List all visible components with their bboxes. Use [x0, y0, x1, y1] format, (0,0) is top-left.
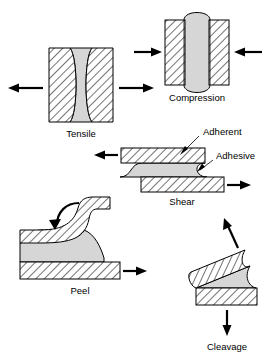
- shear-adherent-bottom: [141, 177, 224, 192]
- tensile-adherent-left: [49, 48, 76, 122]
- peel-caption: Peel: [70, 285, 89, 296]
- peel-adherent-bottom: [20, 262, 120, 279]
- cleavage-adherent-bottom: [196, 288, 257, 305]
- shear-caption: Shear: [169, 196, 194, 207]
- compression-caption: Compression: [169, 92, 225, 103]
- adhesive-label: Adhesive: [216, 150, 255, 161]
- compression-adherent-left: [165, 20, 185, 85]
- tensile-adherent-right: [86, 48, 113, 122]
- compression-adherent-right: [209, 20, 229, 85]
- adherent-label: Adherent: [203, 126, 242, 137]
- cleavage-caption: Cleavage: [207, 341, 247, 352]
- tensile-caption: Tensile: [66, 128, 96, 139]
- compression-adhesive: [184, 13, 210, 93]
- shear-adherent-top: [121, 148, 205, 163]
- adhesive-loading-modes-figure: Tensile Compression: [0, 0, 275, 354]
